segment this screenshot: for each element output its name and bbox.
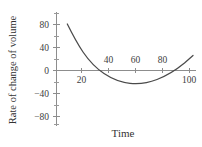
plot-area: 80 40 0 −40 −80 20 40 60 80 100 Time Rat… <box>0 0 202 147</box>
y-tick-label-0: 0 <box>44 66 49 76</box>
x-tick-label-100: 100 <box>182 75 197 85</box>
y-axis-title: Rate of change of volume <box>7 15 18 124</box>
y-tick-label-80: 80 <box>40 20 50 30</box>
x-tick-label-40: 40 <box>104 55 114 65</box>
x-tick-label-20: 20 <box>77 75 87 85</box>
x-axis-title: Time <box>112 127 135 139</box>
x-tick-label-80: 80 <box>158 55 168 65</box>
chart-figure: 80 40 0 −40 −80 20 40 60 80 100 Time Rat… <box>0 0 202 147</box>
y-tick-label-minus40: −40 <box>34 89 49 99</box>
y-tick-label-40: 40 <box>40 43 50 53</box>
x-tick-label-60: 60 <box>131 55 141 65</box>
y-tick-label-minus80: −80 <box>34 112 49 122</box>
